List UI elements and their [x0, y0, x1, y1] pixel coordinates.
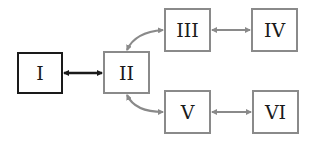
node-label: III	[176, 19, 199, 41]
node-I: I	[17, 52, 63, 94]
diagram-canvas: I II III IV V VI	[0, 0, 311, 149]
node-III: III	[164, 8, 211, 52]
node-II: II	[103, 51, 150, 94]
node-VI: VI	[252, 90, 299, 134]
node-label: I	[36, 62, 44, 84]
node-label: VI	[265, 101, 286, 123]
node-label: V	[181, 101, 195, 123]
edge-II-III	[127, 30, 163, 50]
node-V: V	[164, 90, 211, 134]
node-label: II	[119, 62, 134, 84]
node-label: IV	[264, 19, 285, 41]
edge-II-V	[127, 95, 163, 112]
node-IV: IV	[251, 8, 298, 52]
